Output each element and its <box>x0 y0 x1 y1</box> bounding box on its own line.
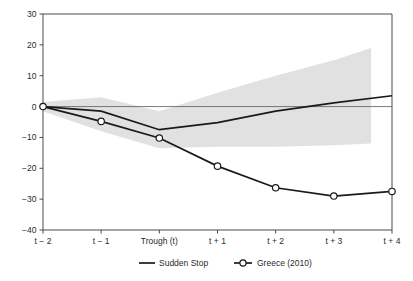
chart-canvas: 3020100−10−20−30−40 t − 2t − 1Trough (t)… <box>0 0 413 281</box>
data-point-marker <box>156 135 162 141</box>
x-tick-label: Trough (t) <box>141 236 178 246</box>
data-point-marker <box>331 193 337 199</box>
y-tick-label: −20 <box>22 163 37 173</box>
y-tick-label: 0 <box>32 102 37 112</box>
y-axis-ticks: 3020100−10−20−30−40 <box>22 9 43 235</box>
y-tick-label: 20 <box>27 40 37 50</box>
legend-marker-greece <box>240 260 246 266</box>
x-tick-label: t − 2 <box>35 236 52 246</box>
y-tick-label: 30 <box>27 9 37 19</box>
x-tick-label: t + 3 <box>325 236 342 246</box>
legend-label-sudden-stop: Sudden Stop <box>159 258 208 268</box>
chart-figure: 3020100−10−20−30−40 t − 2t − 1Trough (t)… <box>0 0 413 281</box>
y-tick-label: −40 <box>22 225 37 235</box>
data-point-marker <box>214 163 220 169</box>
x-tick-label: t + 2 <box>267 236 284 246</box>
legend-label-greece: Greece (2010) <box>257 258 312 268</box>
x-axis-ticks: t − 2t − 1Trough (t)t + 1t + 2t + 3t + 4 <box>35 230 401 246</box>
data-point-marker <box>98 118 104 124</box>
y-tick-label: −10 <box>22 132 37 142</box>
y-tick-label: −30 <box>22 194 37 204</box>
confidence-band <box>43 48 371 148</box>
data-point-marker <box>40 103 46 109</box>
x-tick-label: t − 1 <box>93 236 110 246</box>
x-tick-label: t + 4 <box>384 236 401 246</box>
data-point-marker <box>389 188 395 194</box>
data-point-marker <box>272 185 278 191</box>
x-tick-label: t + 1 <box>209 236 226 246</box>
y-tick-label: 10 <box>27 71 37 81</box>
confidence-band-group <box>43 48 371 148</box>
chart-legend: Sudden Stop Greece (2010) <box>139 258 312 268</box>
